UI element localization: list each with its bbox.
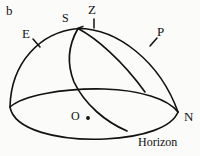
pole-tick-mark [150, 38, 157, 46]
horizon-caption: Horizon [138, 136, 177, 148]
point-label-north: N [184, 110, 193, 123]
point-label-east: E [22, 27, 30, 40]
point-label-origin: O [71, 110, 80, 122]
panel-label: b [6, 4, 13, 17]
point-label-zenith: Z [88, 3, 96, 16]
point-label-pole: P [157, 25, 164, 38]
celestial-sphere-figure: b E S Z P N O Horizon [0, 0, 200, 156]
meridian-arc [78, 29, 145, 93]
point-label-south: S [62, 12, 69, 24]
origin-dot [86, 116, 90, 120]
celestial-sphere-drawing [0, 0, 200, 156]
